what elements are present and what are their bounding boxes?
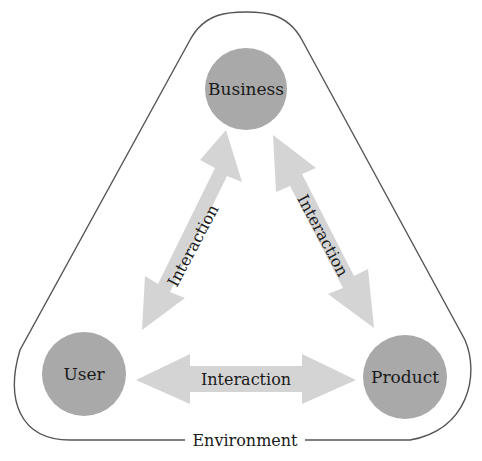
node-user: User bbox=[42, 332, 126, 416]
product-label: Product bbox=[371, 367, 439, 387]
interaction-label-business-product: Interaction bbox=[293, 191, 352, 280]
interaction-label-user-product: Interaction bbox=[201, 370, 291, 389]
business-label: Business bbox=[208, 79, 284, 99]
environment-label: Environment bbox=[192, 431, 298, 450]
interaction-arrow-user-business: Interaction bbox=[142, 130, 242, 330]
interaction-arrow-business-product: Interaction bbox=[273, 135, 374, 328]
user-label: User bbox=[63, 364, 105, 384]
user-business-product-diagram: Interaction Interaction Interaction Busi… bbox=[0, 0, 482, 461]
node-product: Product bbox=[363, 335, 447, 419]
interaction-arrow-user-product: Interaction bbox=[136, 354, 356, 404]
node-business: Business bbox=[205, 48, 287, 130]
